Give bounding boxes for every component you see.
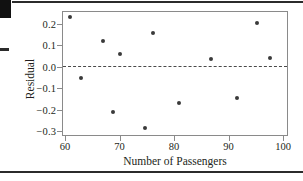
y-axis-tick	[57, 24, 62, 25]
y-axis-tick-label: 0.1	[43, 40, 56, 51]
scatter-point	[118, 52, 122, 56]
scatter-point	[209, 57, 213, 61]
y-axis-tick-label: 0.2	[43, 19, 56, 30]
y-axis-tick	[57, 110, 62, 111]
y-axis-tick-label: −0.1	[37, 83, 56, 94]
scatter-point	[151, 31, 155, 35]
scatter-point	[111, 110, 115, 114]
x-axis-tick-label: 80	[169, 141, 180, 152]
scatter-point	[101, 39, 105, 43]
plot-area	[62, 11, 288, 136]
x-axis-tick-label: 90	[223, 141, 234, 152]
x-axis-tick-label: 60	[60, 141, 71, 152]
y-axis-tick-label: −0.2	[37, 104, 56, 115]
scatter-point	[143, 126, 147, 130]
y-axis-tick-label: −0.3	[37, 126, 56, 137]
page-rule-bottom	[0, 171, 303, 173]
page-rule-top	[12, 1, 303, 3]
y-axis-label: Residual	[24, 31, 36, 127]
y-axis-tick-label: 0.0	[43, 61, 56, 72]
residual-plot-figure: 0.20.10.0−0.1−0.2−0.3 60708090100 Residu…	[0, 0, 303, 181]
scatter-point	[79, 76, 83, 80]
x-axis-label: Number of Passengers	[62, 155, 288, 167]
scatter-point	[177, 101, 181, 105]
y-axis-tick	[57, 131, 62, 132]
y-axis-tick	[57, 88, 62, 89]
scatter-point	[235, 96, 239, 100]
y-axis-tick	[57, 67, 62, 68]
zero-reference-line	[63, 66, 287, 67]
x-axis-tick-label: 100	[275, 141, 291, 152]
x-axis-tick-label: 70	[114, 141, 125, 152]
scatter-point	[255, 21, 259, 25]
page-corner-block	[0, 0, 11, 18]
y-axis-tick	[57, 45, 62, 46]
page-edge-dash	[0, 48, 9, 51]
scatter-point	[268, 56, 272, 60]
scatter-point	[68, 15, 72, 19]
